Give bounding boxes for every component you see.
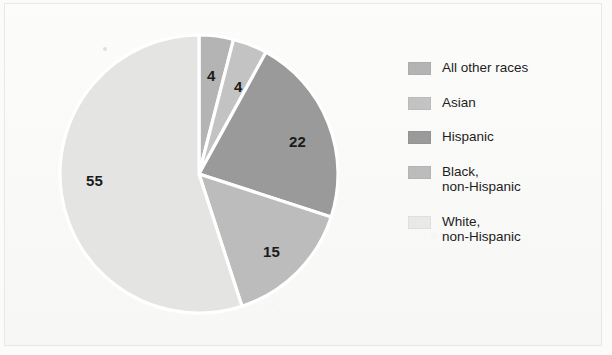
pie-chart-figure: 44221555 All other racesAsianHispanicBla… — [0, 0, 612, 355]
pie-slice-value-label: 22 — [289, 133, 306, 150]
legend-item-label: White, non-Hispanic — [442, 214, 521, 245]
pie-slice-value-label: 15 — [263, 243, 280, 260]
legend-item[interactable]: All other races — [408, 60, 598, 76]
legend-item[interactable]: Asian — [408, 95, 598, 111]
legend-swatch-icon — [408, 166, 431, 179]
legend-item[interactable]: White, non-Hispanic — [408, 214, 598, 245]
legend-item-label: All other races — [442, 60, 528, 76]
legend-swatch-icon — [408, 131, 431, 144]
legend-item-label: Black, non-Hispanic — [442, 164, 521, 195]
legend-item-label: Hispanic — [442, 129, 494, 145]
legend-item-label: Asian — [442, 95, 476, 111]
pie-slice-value-label: 55 — [86, 172, 103, 189]
legend-swatch-icon — [408, 62, 431, 75]
legend-swatch-icon — [408, 97, 431, 110]
legend-swatch-icon — [408, 216, 431, 229]
legend-item[interactable]: Black, non-Hispanic — [408, 164, 598, 195]
chart-legend: All other racesAsianHispanicBlack, non-H… — [408, 60, 598, 264]
pie-slice-value-label: 4 — [234, 78, 243, 95]
legend-item[interactable]: Hispanic — [408, 129, 598, 145]
pie-slice-value-label: 4 — [207, 67, 216, 84]
chart-plot-area: 44221555 — [0, 0, 400, 355]
